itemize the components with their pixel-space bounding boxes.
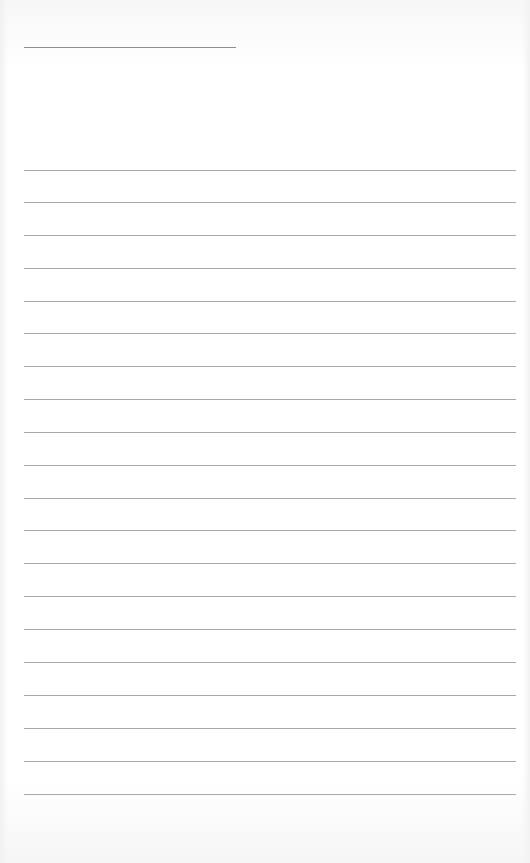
writing-line [24,465,516,466]
writing-line [24,432,516,433]
writing-line [24,761,516,762]
page-edge-shadow-right [522,0,530,863]
writing-line [24,563,516,564]
writing-line [24,629,516,630]
writing-line [24,235,516,236]
writing-line [24,301,516,302]
writing-line [24,268,516,269]
writing-line [24,728,516,729]
writing-line [24,794,516,795]
writing-line [24,202,516,203]
title-line [24,47,236,48]
writing-line [24,695,516,696]
writing-line [24,333,516,334]
writing-line [24,596,516,597]
writing-line [24,399,516,400]
writing-line [24,170,516,171]
writing-line [24,662,516,663]
page-edge-shadow-left [0,0,8,863]
writing-line [24,498,516,499]
writing-line [24,366,516,367]
lined-paper-page [0,0,530,863]
writing-line [24,530,516,531]
